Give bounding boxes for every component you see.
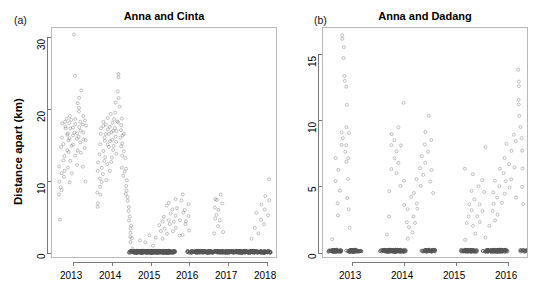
panel-a-xlabel-2017: 2017 — [215, 270, 237, 281]
panel-a-xlabel-2018: 2018 — [254, 270, 276, 281]
panel-b: (b) Anna and Dadang 0 5 10 15 2013 2014 … — [300, 0, 550, 298]
panel-a-ylabel-10: 10 — [36, 183, 47, 194]
panel-b-ylabel-10: 10 — [307, 122, 318, 133]
panel-a-xtick-2014 — [112, 262, 113, 266]
panel-a-xlabel-2014: 2014 — [99, 270, 121, 281]
panel-a-ylabel-0: 0 — [36, 253, 47, 259]
panel-b-plot-frame — [322, 27, 528, 258]
panel-a-xtick-2015 — [151, 262, 152, 266]
panel-b-xlabel-2016: 2016 — [495, 270, 517, 281]
panel-b-ytick-15 — [318, 54, 322, 55]
panel-b-ylabel-15: 15 — [307, 56, 318, 67]
panel-a-points-layer — [52, 28, 276, 257]
panel-b-ylabel-0: 0 — [307, 253, 318, 259]
panel-a-xlabel-2016: 2016 — [176, 270, 198, 281]
panel-a-title: Anna and Cinta — [51, 10, 277, 22]
panel-b-x-axis-line — [352, 262, 508, 263]
panel-b-xlabel-2015: 2015 — [443, 270, 465, 281]
panel-a-ylabel-20: 20 — [36, 111, 47, 122]
panel-a-ytick-0 — [47, 253, 51, 254]
panel-a-xlabel-2013: 2013 — [60, 270, 82, 281]
panel-a-xlabel-2015: 2015 — [138, 270, 160, 281]
panel-a-ytick-30 — [47, 37, 51, 38]
panel-a-x-axis-line — [73, 262, 267, 263]
panel-a-xtick-2017 — [228, 262, 229, 266]
panel-a-xtick-2013 — [73, 262, 74, 266]
panel-b-points-layer — [323, 28, 527, 257]
panel-a-ytick-10 — [47, 181, 51, 182]
panel-b-xtick-2015 — [456, 262, 457, 266]
figure-container: (a) Anna and Cinta Distance apart (km) 0… — [0, 0, 550, 298]
panel-b-xlabel-2013: 2013 — [339, 270, 361, 281]
panel-b-xtick-2014 — [404, 262, 405, 266]
panel-a-tag: (a) — [14, 14, 27, 26]
panel-a-xtick-2018 — [267, 262, 268, 266]
panel-a-ytick-20 — [47, 109, 51, 110]
panel-a: (a) Anna and Cinta Distance apart (km) 0… — [0, 0, 300, 298]
panel-b-ytick-0 — [318, 253, 322, 254]
panel-b-ytick-10 — [318, 120, 322, 121]
panel-a-ylabel-30: 30 — [36, 39, 47, 50]
panel-b-y-axis-line — [318, 54, 319, 253]
panel-b-ytick-5 — [318, 186, 322, 187]
panel-a-xtick-2016 — [189, 262, 190, 266]
panel-b-xlabel-2014: 2014 — [391, 270, 413, 281]
panel-b-title: Anna and Dadang — [322, 10, 528, 22]
panel-b-xtick-2013 — [352, 262, 353, 266]
panel-a-y-axis-title: Distance apart (km) — [12, 98, 24, 205]
panel-b-xtick-2016 — [508, 262, 509, 266]
panel-b-ylabel-5: 5 — [307, 186, 318, 192]
panel-a-y-axis-line — [47, 37, 48, 253]
panel-a-plot-frame — [51, 27, 277, 258]
